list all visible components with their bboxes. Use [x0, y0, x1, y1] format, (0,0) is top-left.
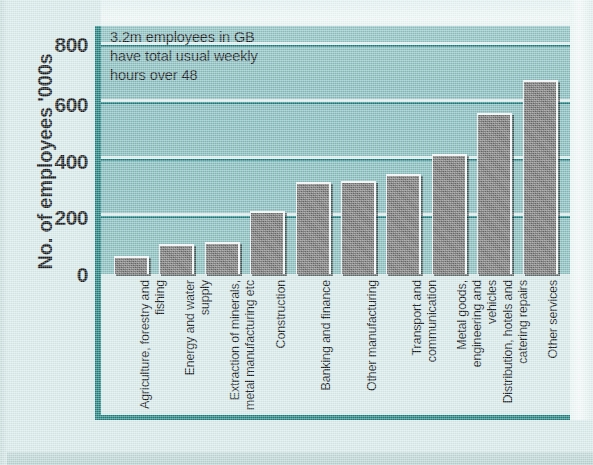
- bar-3: [250, 211, 285, 274]
- bar-6: [386, 174, 421, 274]
- bar-5: [341, 181, 376, 274]
- bar-2: [205, 242, 240, 274]
- bar-0: [114, 256, 149, 274]
- x-label-9: Other services: [546, 280, 561, 410]
- y-tick-200: 200: [54, 207, 88, 228]
- x-label-0: Agriculture, forestry and fishing: [138, 280, 168, 410]
- bar-4: [296, 182, 331, 274]
- y-axis-tick-labels: 800 600 400 200 0: [30, 0, 88, 290]
- bar-9: [523, 80, 558, 274]
- x-label-6: Transport and communication: [410, 280, 440, 410]
- page-right-margin: [570, 0, 593, 420]
- x-label-3: Construction: [274, 280, 289, 410]
- x-label-2: Extraction of minerals, metal manufactur…: [228, 280, 258, 410]
- y-tick-600: 600: [54, 94, 88, 115]
- page-top-margin: [101, 0, 593, 26]
- y-axis-line: [95, 26, 101, 274]
- plot-area: 3.2m employees in GB have total usual we…: [101, 26, 570, 274]
- y-tick-800: 800: [54, 34, 88, 55]
- x-axis-category-labels: Agriculture, forestry and fishingEnergy …: [101, 280, 581, 420]
- page-left-edge: [0, 0, 7, 465]
- bar-1: [159, 244, 194, 274]
- x-label-8: Distribution, hotels and catering repair…: [501, 280, 531, 410]
- x-label-4: Banking and finance: [319, 280, 334, 410]
- gridline-600: [101, 102, 570, 104]
- y-tick-400: 400: [54, 151, 88, 172]
- bar-8: [477, 113, 512, 274]
- bar-chart-figure: No. of employees '000s 800 600 400 200 0…: [0, 0, 593, 465]
- chart-annotation: 3.2m employees in GB have total usual we…: [110, 28, 258, 85]
- y-tick-0: 0: [77, 264, 88, 285]
- x-label-1: Energy and water supply: [183, 280, 213, 410]
- page-bottom-edge: [0, 452, 593, 465]
- x-label-7: Metal goods, engineering and vehicles: [455, 280, 499, 410]
- bar-7: [432, 154, 467, 274]
- x-label-5: Other manufacturing: [365, 280, 380, 410]
